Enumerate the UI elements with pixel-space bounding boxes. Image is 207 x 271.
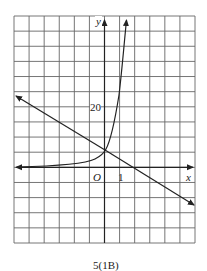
figure-caption: 5(1B) [93,260,119,271]
x-axis-label: x [186,172,191,183]
origin-label: O [93,172,101,183]
exponential-curve [17,20,127,167]
x-tick-label-1: 1 [118,172,124,183]
y-axis-label: y [95,16,102,27]
y-tick-label-20: 20 [90,102,101,113]
